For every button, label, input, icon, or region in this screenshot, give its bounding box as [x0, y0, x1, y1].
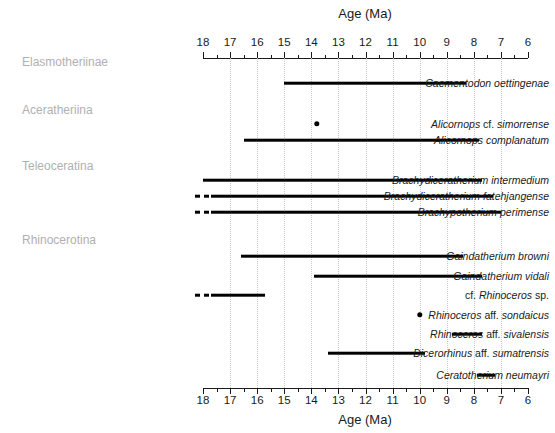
axis-tick-bottom	[379, 388, 380, 392]
tick-label-bottom-18: 18	[197, 394, 210, 406]
axis-tick-bottom	[217, 388, 218, 392]
axis-tick-bottom	[325, 388, 326, 392]
tick-label-top-10: 10	[413, 36, 426, 48]
range-bar-uncertain	[195, 195, 211, 198]
axis-tick-bottom	[271, 388, 272, 392]
tick-label-top-8: 8	[471, 36, 477, 48]
axis-tick-bottom	[352, 388, 353, 392]
taxon-label: Alicornops cf. simorrense	[360, 118, 555, 130]
axis-title-top: Age (Ma)	[195, 6, 535, 21]
group-label-teleoceratina: Teleoceratina	[22, 159, 93, 173]
tick-label-top-7: 7	[498, 36, 504, 48]
taxon-label: Brachydiceratherium fatehjangense	[360, 190, 555, 202]
axis-tick-bottom	[298, 388, 299, 392]
tick-label-top-16: 16	[251, 36, 264, 48]
axis-tick-bottom	[514, 388, 515, 392]
tick-label-top-11: 11	[387, 36, 399, 48]
tick-label-bottom-11: 11	[387, 394, 399, 406]
tick-label-top-15: 15	[278, 36, 291, 48]
gridline	[338, 58, 339, 388]
taxon-label: Alicornops complanatum	[360, 134, 555, 146]
axis-tick-bottom	[244, 388, 245, 392]
tick-label-bottom-15: 15	[278, 394, 291, 406]
taxon-label: cf. Rhinoceros sp.	[360, 289, 555, 301]
axis-tick-bottom	[487, 388, 488, 392]
axis-tick-bottom	[433, 388, 434, 392]
gridline	[230, 58, 231, 388]
taxon-label: Ceratotherium neumayri	[360, 369, 555, 381]
group-label-elasmotheriinae: Elasmotheriinae	[22, 55, 108, 69]
gridline	[257, 58, 258, 388]
taxon-label: Gaindatherium browni	[360, 250, 555, 262]
gridline	[311, 58, 312, 388]
tick-label-bottom-6: 6	[525, 394, 531, 406]
tick-label-top-14: 14	[305, 36, 318, 48]
tick-label-top-6: 6	[525, 36, 531, 48]
tick-label-bottom-7: 7	[498, 394, 504, 406]
range-bar-uncertain	[195, 211, 211, 214]
tick-label-bottom-9: 9	[444, 394, 450, 406]
tick-label-top-9: 9	[444, 36, 450, 48]
tick-label-bottom-16: 16	[251, 394, 264, 406]
range-bar	[211, 294, 265, 297]
occurrence-point	[314, 121, 319, 126]
age-range-chart: Age (Ma) 1818171716161515141413131212111…	[0, 0, 555, 433]
gridline	[284, 58, 285, 388]
tick-label-top-17: 17	[224, 36, 237, 48]
tick-label-bottom-8: 8	[471, 394, 477, 406]
group-label-aceratheriina: Aceratheriina	[22, 103, 93, 117]
taxon-label: Rhinoceros aff. sondaicus	[360, 309, 555, 321]
tick-label-bottom-17: 17	[224, 394, 237, 406]
tick-label-bottom-10: 10	[413, 394, 426, 406]
taxon-label: Gaindatherium vidali	[360, 270, 555, 282]
axis-tick-bottom	[460, 388, 461, 392]
axis-title-bottom: Age (Ma)	[195, 412, 535, 427]
tick-label-top-18: 18	[197, 36, 210, 48]
axis-tick-top	[528, 52, 529, 58]
range-bar-uncertain	[195, 294, 211, 297]
tick-label-top-12: 12	[359, 36, 372, 48]
tick-label-bottom-12: 12	[359, 394, 372, 406]
taxon-label: Caementodon oettingenae	[360, 77, 555, 89]
taxon-label: Rhinoceros aff. sivalensis	[360, 328, 555, 340]
tick-label-bottom-13: 13	[332, 394, 345, 406]
tick-label-top-13: 13	[332, 36, 345, 48]
group-label-rhinocerotina: Rhinocerotina	[22, 233, 96, 247]
taxon-label: Brachypotherium perimense	[360, 206, 555, 218]
taxon-label: Dicerorhinus aff. sumatrensis	[360, 347, 555, 359]
axis-tick-bottom	[406, 388, 407, 392]
tick-label-bottom-14: 14	[305, 394, 318, 406]
taxon-label: Brachydiceratherium intermedium	[360, 174, 555, 186]
